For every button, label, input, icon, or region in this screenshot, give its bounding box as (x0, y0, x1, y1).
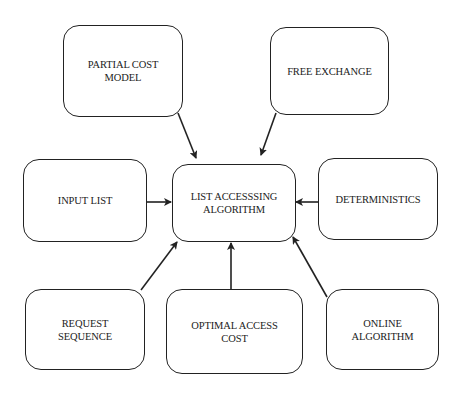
arrow-free-exchange-to-center (261, 113, 276, 155)
node-partial-cost-model: PARTIAL COST MODEL (63, 25, 183, 117)
node-online-algorithm: ONLINE ALGORITHM (326, 289, 439, 370)
node-label: PARTIAL COST MODEL (88, 58, 159, 84)
center-label: LIST ACCESSSING ALGORITHM (191, 190, 278, 216)
node-list-accessing-algorithm: LIST ACCESSSING ALGORITHM (172, 164, 296, 242)
diagram-canvas: PARTIAL COST MODEL FREE EXCHANGE INPUT L… (0, 0, 459, 393)
node-optimal-access-cost: OPTIMAL ACCESS COST (166, 289, 303, 374)
arrow-online-algorithm-to-center (293, 237, 327, 297)
node-request-sequence: REQUEST SEQUENCE (25, 289, 145, 370)
node-input-list: INPUT LIST (23, 159, 147, 242)
node-label: DETERMINISTICS (336, 193, 421, 206)
node-free-exchange: FREE EXCHANGE (270, 27, 389, 115)
node-label: OPTIMAL ACCESS COST (191, 319, 278, 345)
arrow-partial-cost-to-center (178, 113, 196, 158)
node-label: INPUT LIST (58, 194, 113, 207)
node-deterministics: DETERMINISTICS (318, 158, 438, 240)
node-label: ONLINE ALGORITHM (351, 317, 413, 343)
arrow-request-sequence-to-center (141, 242, 177, 290)
node-label: REQUEST SEQUENCE (58, 317, 112, 343)
node-label: FREE EXCHANGE (287, 65, 372, 78)
